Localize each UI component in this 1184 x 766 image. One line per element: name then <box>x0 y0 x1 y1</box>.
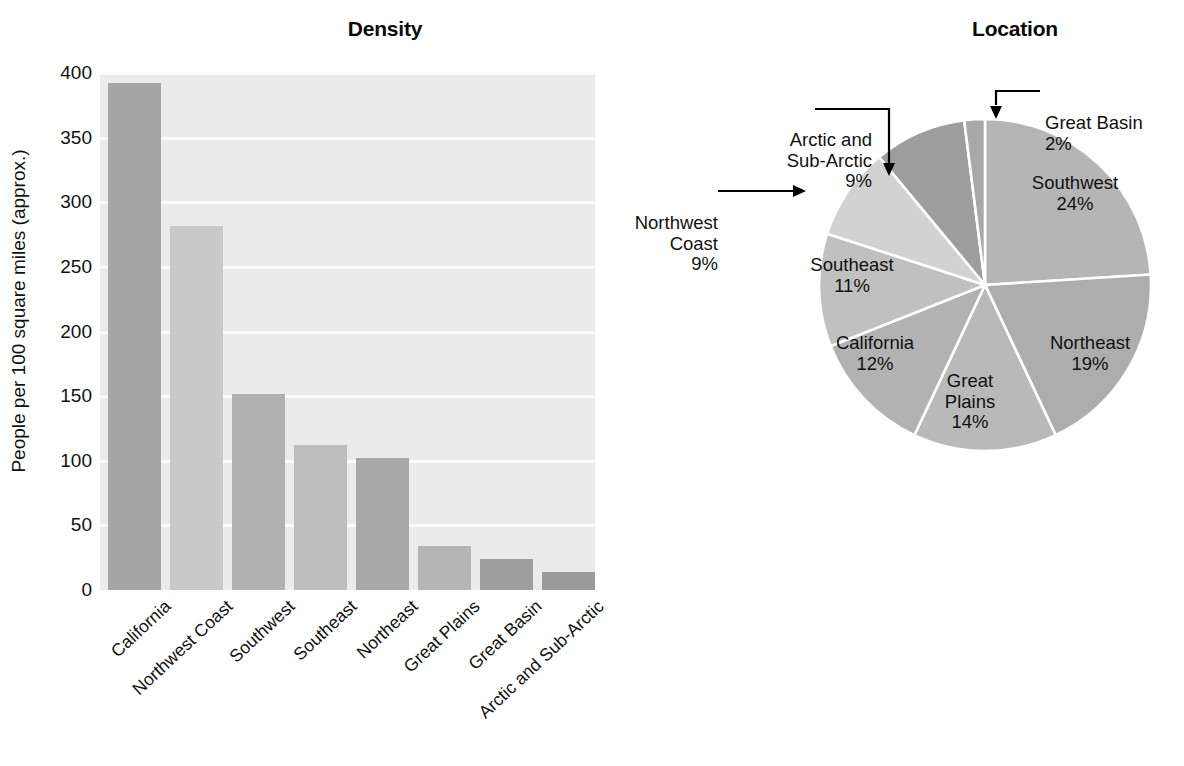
pie-chart-title: Location <box>925 17 1105 41</box>
pie-slice-label: Southeast 11% <box>762 255 942 296</box>
bar <box>108 83 161 590</box>
bar <box>418 546 471 590</box>
gridline <box>100 201 595 204</box>
callout-arctic-and-sub-arctic: Arctic and Sub-Arctic 9% <box>660 130 872 192</box>
bar <box>356 458 409 590</box>
y-axis-tick-label: 150 <box>30 386 92 405</box>
y-axis-tick-label: 200 <box>30 322 92 341</box>
bar <box>232 394 285 590</box>
pie-slice-label: Northeast 19% <box>1000 333 1180 374</box>
gridline <box>100 72 595 75</box>
callout-northwest-coast: Northwest Coast 9% <box>570 213 718 275</box>
bar <box>542 572 595 590</box>
pie-slice-label: California 12% <box>785 333 965 374</box>
y-axis-tick-label: 100 <box>30 451 92 470</box>
bar <box>170 226 223 590</box>
bar <box>480 559 533 590</box>
y-axis-tick-label: 50 <box>30 515 92 534</box>
bar <box>294 445 347 590</box>
callout-leader-line <box>996 91 1040 105</box>
figure-panel: Density People per 100 square miles (app… <box>0 0 1184 766</box>
y-axis-tick-label: 350 <box>30 128 92 147</box>
bar-chart-title: Density <box>285 17 485 41</box>
pie-slice-label: Great Plains 14% <box>880 371 1060 433</box>
callout-great-basin: Great Basin 2% <box>1045 113 1184 154</box>
bar-chart-panel: Density People per 100 square miles (app… <box>0 0 660 766</box>
x-axis-tick-label: Southeast <box>289 596 361 665</box>
bar-chart-plot-area <box>100 73 595 590</box>
gridline <box>100 137 595 140</box>
pie-chart-panel: Location Southwest 24%Northeast 19%Great… <box>660 0 1184 766</box>
y-axis-tick-label: 250 <box>30 257 92 276</box>
bar-chart-y-tick-group: 400350300250200150100500 <box>26 73 92 590</box>
y-axis-tick-label: 400 <box>30 63 92 82</box>
y-axis-tick-label: 300 <box>30 192 92 211</box>
pie-slice-label: Southwest 24% <box>985 173 1165 214</box>
y-axis-tick-label: 0 <box>30 580 92 599</box>
x-axis-tick-label: Southwest <box>225 596 299 667</box>
callout-arrowhead <box>990 106 1002 119</box>
